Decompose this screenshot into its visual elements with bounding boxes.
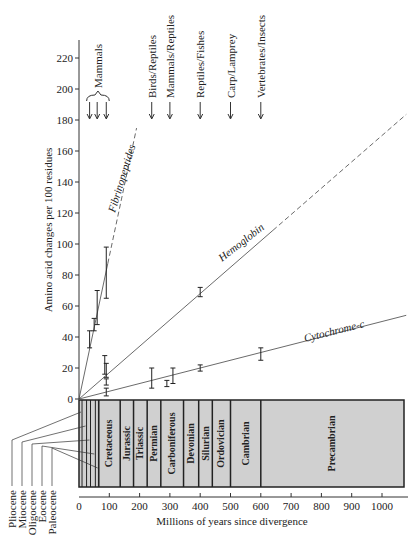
y-tick-label: 200: [57, 83, 74, 95]
period-label: Cretaceous: [103, 420, 114, 468]
x-tick-label: 0: [76, 500, 82, 512]
x-tick-label: 500: [222, 500, 239, 512]
period-label: Devonian: [185, 423, 196, 464]
annotation-label: Carp/Lamprey: [225, 33, 237, 98]
brace-icon: [87, 91, 110, 101]
period-label: Permian: [148, 425, 159, 462]
y-tick-label: 140: [57, 176, 74, 188]
y-tick-label: 80: [62, 269, 74, 281]
series-label-cytochrome-c: Cytochrome-c: [303, 317, 366, 344]
x-tick-label: 100: [101, 500, 118, 512]
period-label: Cambrian: [240, 421, 251, 465]
x-tick-label: 200: [131, 500, 148, 512]
y-axis-label: Amino acid changes per 100 residues: [42, 148, 54, 313]
y-tick-label: 100: [57, 238, 74, 250]
x-tick-label: 600: [253, 500, 270, 512]
period-label: Carboniferous: [166, 412, 177, 474]
annotation-label: Birds/Reptiles: [146, 35, 158, 98]
y-tick-label: 60: [62, 300, 74, 312]
annotation-label: Mammals: [92, 44, 104, 88]
epoch-label: Paleocene: [46, 490, 58, 535]
annotation-label: Vertebrates/Insects: [255, 15, 267, 98]
y-tick-label: 220: [57, 52, 74, 64]
period-label: Ordovician: [215, 419, 226, 468]
series-label-fibrinopeptides: Fibrinopeptides: [105, 143, 137, 215]
x-tick-label: 900: [343, 500, 360, 512]
x-tick-label: 700: [283, 500, 300, 512]
y-tick-label: 160: [57, 145, 74, 157]
annotation-label: Reptiles/Fishes: [194, 31, 206, 98]
x-axis-label: Millions of years since divergence: [156, 515, 307, 527]
x-tick-label: 300: [162, 500, 179, 512]
y-tick-label: 120: [57, 207, 74, 219]
y-tick-label: 0: [68, 393, 74, 405]
y-tick-label: 180: [57, 114, 74, 126]
period-label: Precambrian: [326, 415, 337, 471]
y-tick-label: 20: [62, 362, 74, 374]
divergence-annotations: MammalsBirds/ReptilesMammals/ReptilesRep…: [87, 15, 267, 119]
period-label: Silurian: [200, 426, 211, 461]
molecular-clock-chart: 0204060801001201401601802002200100200300…: [0, 0, 413, 543]
annotation-label: Mammals/Reptiles: [164, 15, 176, 98]
series-line: [79, 230, 273, 399]
period-label: Jurassic: [121, 425, 132, 461]
x-tick-label: 400: [192, 500, 209, 512]
x-tick-label: 1000: [371, 500, 394, 512]
series-lines: FibrinopeptidesHemoglobinCytochrome-c: [79, 114, 406, 399]
x-tick-label: 800: [313, 500, 330, 512]
period-label: Triassic: [134, 426, 145, 460]
y-tick-label: 40: [62, 331, 74, 343]
